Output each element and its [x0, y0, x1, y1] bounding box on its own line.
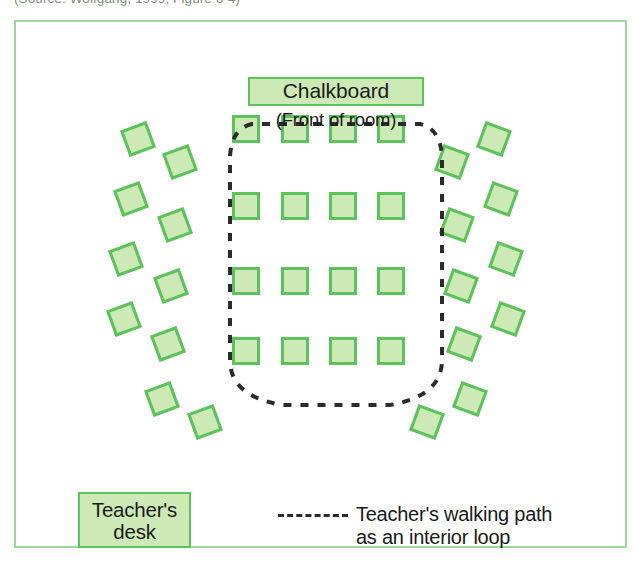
desk-left-block-5 [108, 241, 144, 277]
source-credit-caption: (Source: Wolfgang, 1999, Figure 6-4) [14, 0, 240, 6]
desk-right-block-7 [490, 301, 526, 337]
chalkboard-label-text: Chalkboard [283, 80, 389, 102]
walking-path-outline [230, 124, 442, 405]
classroom-frame: Chalkboard (Front of room) Teacher's des… [14, 20, 627, 548]
desk-right-block-8 [446, 326, 482, 362]
chalkboard-label-box: Chalkboard [248, 77, 424, 106]
teachers-desk-label-line1: Teacher's [92, 499, 177, 521]
teachers-desk-box: Teacher's desk [78, 492, 191, 548]
teacher-walking-path [222, 110, 450, 412]
legend-label: Teacher's walking path as an interior lo… [356, 503, 552, 549]
desk-left-block-2 [162, 144, 198, 180]
desk-bottom-right-1 [452, 381, 488, 417]
dashed-line-icon [278, 514, 348, 517]
desk-bottom-left-2 [187, 404, 223, 440]
classroom-diagram-page: (Source: Wolfgang, 1999, Figure 6-4) Cha… [0, 0, 641, 567]
desk-left-block-8 [150, 326, 186, 362]
teachers-desk-label-line2: desk [113, 521, 156, 543]
desk-bottom-left-1 [144, 381, 180, 417]
legend: Teacher's walking path as an interior lo… [278, 503, 552, 549]
desk-right-block-1 [476, 121, 512, 157]
desk-left-block-1 [120, 121, 156, 157]
desk-left-block-4 [157, 207, 193, 243]
desk-left-block-3 [113, 181, 149, 217]
desk-left-block-7 [106, 301, 142, 337]
desk-left-block-6 [153, 268, 189, 304]
desk-right-block-3 [483, 181, 519, 217]
front-of-room-label: (Front of room) [248, 109, 424, 131]
desk-right-block-5 [488, 241, 524, 277]
